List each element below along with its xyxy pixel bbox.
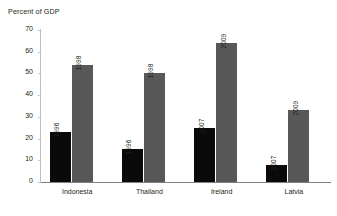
y-axis-tick-label: 50 [25,68,33,75]
y-axis-tick-label: 10 [25,155,33,162]
bar: 1998 [72,65,93,182]
y-axis-tick-mark [38,182,41,183]
bar-value-label: 2009 [220,34,227,49]
bar: 2009 [288,110,309,182]
y-axis-tick-label: 20 [25,134,33,141]
y-axis-tick-mark [38,117,41,118]
y-axis-tick-label: 70 [25,25,33,32]
bar-group: 20072009 [266,30,309,182]
y-axis-tick-mark [38,160,41,161]
bar-value-label: 1996 [53,123,60,138]
y-axis-tick-label: 0 [29,177,33,184]
y-axis-tick-label: 40 [25,90,33,97]
bar-value-label: 2007 [198,118,205,133]
bar: 2007 [266,165,287,182]
category-label: Thailand [113,188,185,195]
x-axis-line [40,182,331,183]
category-label: Latvia [258,188,330,195]
y-axis-tick-label: 30 [25,112,33,119]
chart-title: Percent of GDP [8,7,60,16]
y-axis-tick-mark [38,52,41,53]
bar: 2009 [216,43,237,182]
bar-value-label: 1996 [125,140,132,155]
bar: 2007 [194,128,215,182]
y-axis-tick-mark [38,30,41,31]
bar-group: 20072009 [194,30,237,182]
bar: 1996 [122,149,143,182]
category-label: Indonesia [41,188,113,195]
y-axis-tick-mark [38,139,41,140]
bar: 1998 [144,73,165,182]
bar-group: 19961998 [50,30,93,182]
y-axis-tick-label: 60 [25,47,33,54]
category-label: Ireland [186,188,258,195]
bar-group: 19961998 [122,30,165,182]
bar-value-label: 1998 [147,64,154,79]
bar-value-label: 2007 [270,155,277,170]
bar-chart: Percent of GDP 706050403020100 199619981… [0,0,337,216]
y-axis-tick-mark [38,95,41,96]
bar-value-label: 1998 [75,55,82,70]
y-axis-tick-mark [38,73,41,74]
bar-value-label: 2009 [292,101,299,116]
bar: 1996 [50,132,71,182]
